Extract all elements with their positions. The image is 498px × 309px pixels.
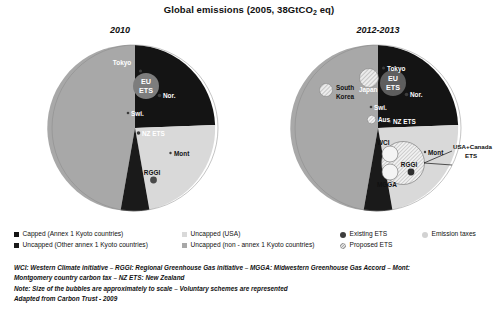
- pie-label-wci: WCI: [377, 139, 390, 146]
- footnote-line-3: Note: Size of the bubbles are approximat…: [14, 284, 494, 294]
- pie-label-nz-ets-2012: NZ ETS: [393, 118, 416, 125]
- bubble-mont-2012: [424, 151, 426, 153]
- legend-label-proposed-ets: Proposed ETS: [350, 242, 393, 249]
- pie-label-tokyo-2012: Tokyo: [387, 65, 405, 73]
- bubble-nor-2012: [405, 93, 409, 97]
- legend-label-uncapped-usa: Uncapped (USA): [191, 231, 241, 238]
- uncapped-usa-swatch-icon: [182, 232, 187, 237]
- legend-column-2: Uncapped (USA) Uncapped (non - annex 1 K…: [182, 229, 342, 251]
- uncapped-other-annex1-swatch-icon: [14, 243, 19, 248]
- pie-label-nz-ets-2010: NZ ETS: [142, 130, 165, 137]
- bubble-nor-2010: [158, 94, 162, 98]
- bubble-mont-2010: [169, 152, 171, 154]
- pie-label-rggi-2012: RGGI: [401, 161, 418, 168]
- pie-label-nor-2010: Nor.: [163, 92, 176, 99]
- slice-uncapped-non-annex1: [47, 45, 135, 210]
- legend-item-emission-taxes[interactable]: Emission taxes: [422, 229, 498, 240]
- chart-root: Global emissions (2005, 38GtCO2 eq) 2010…: [0, 0, 498, 309]
- pie-label-south-korea-2: Korea: [336, 93, 355, 100]
- pie-2010: Tokyo EU ETS Nor. Swi. NZ ETS Mont RGGI: [47, 45, 218, 211]
- bubble-japan: [360, 69, 379, 88]
- legend-item-proposed-ets[interactable]: Proposed ETS: [340, 240, 430, 251]
- legend-item-uncapped-other-annex1[interactable]: Uncapped (Other annex 1 Kyoto countries): [14, 240, 184, 251]
- bubble-tokyo-2012: [382, 67, 385, 70]
- footnote-line-1: WCI: Western Climate initiative – RGGI: …: [14, 263, 494, 273]
- callout-label-ets: ETS: [465, 152, 477, 159]
- pie-label-mont-2012: Mont: [428, 149, 444, 156]
- footnote-line-4: Adapted from Carbon Trust - 2009: [14, 294, 494, 304]
- pie-label-aus: Aus: [378, 116, 391, 123]
- bubble-nz-ets-2010: [137, 131, 141, 135]
- legend-item-uncapped-usa[interactable]: Uncapped (USA): [182, 229, 342, 240]
- legend-label-capped-annex1: Capped (Annex 1 Kyoto countries): [23, 231, 124, 238]
- pie-label-rggi-2010: RGGI: [144, 169, 161, 176]
- bubble-swi-2012: [370, 106, 373, 109]
- pie-label-nor-2012: Nor.: [410, 91, 423, 98]
- legend-label-emission-taxes: Emission taxes: [432, 231, 476, 238]
- bubble-mgga: [382, 164, 398, 180]
- bubble-swi-2010: [127, 112, 130, 115]
- pie-label-japan: Japan: [359, 86, 378, 94]
- pie-label-tokyo-2010: Tokyo: [113, 59, 131, 67]
- bubble-south-korea: [320, 84, 333, 97]
- legend-column-3: Existing ETS Proposed ETS: [340, 229, 430, 251]
- uncapped-non-annex1-swatch-icon: [182, 243, 187, 248]
- pie-label-ets-2012: ETS: [386, 83, 400, 92]
- pie-label-swi-2012: Swi.: [374, 104, 387, 111]
- legend-label-uncapped-non-annex1: Uncapped (non - annex 1 Kyoto countries): [191, 242, 315, 249]
- emission-taxes-circle-icon: [422, 232, 428, 238]
- bubble-rggi-2010: [150, 177, 157, 184]
- legend-column-1: Capped (Annex 1 Kyoto countries) Uncappe…: [14, 229, 184, 251]
- pie-label-mont-2010: Mont: [174, 150, 190, 157]
- callout-label-usa-canada: USA+Canada: [453, 143, 493, 150]
- pie-label-south-korea-1: South: [336, 84, 354, 91]
- footnote-line-2: Montgomery country carbon tax – NZ ETS: …: [14, 273, 494, 283]
- legend-item-capped-annex1[interactable]: Capped (Annex 1 Kyoto countries): [14, 229, 184, 240]
- proposed-ets-circle-icon: [340, 243, 346, 249]
- bubble-wci: [382, 146, 398, 162]
- legend-label-uncapped-other-annex1: Uncapped (Other annex 1 Kyoto countries): [23, 242, 148, 249]
- legend-item-uncapped-non-annex1[interactable]: Uncapped (non - annex 1 Kyoto countries): [182, 240, 342, 251]
- pie-label-eu-2012: EU: [388, 74, 398, 83]
- pies-svg: Tokyo EU ETS Nor. Swi. NZ ETS Mont RGGI: [0, 0, 498, 232]
- pie-label-eu-2010: EU: [141, 77, 151, 86]
- legend-item-existing-ets[interactable]: Existing ETS: [340, 229, 430, 240]
- pie-2012-2013: South Korea Japan Tokyo EU ETS Nor. Swi.…: [290, 45, 492, 211]
- legend-column-4: Emission taxes: [422, 229, 498, 240]
- footnotes: WCI: Western Climate initiative – RGGI: …: [14, 263, 494, 305]
- pie-label-mgga: MGGA: [377, 181, 397, 188]
- pie-label-ets-2010: ETS: [139, 86, 153, 95]
- pie-label-swi-2010: Swi.: [131, 110, 144, 117]
- capped-annex1-swatch-icon: [14, 232, 19, 237]
- bubble-aus: [367, 115, 375, 123]
- legend-label-existing-ets: Existing ETS: [350, 231, 388, 238]
- bubble-rggi-2012: [408, 169, 415, 176]
- bubble-tokyo-2010: [139, 69, 142, 72]
- existing-ets-circle-icon: [340, 232, 346, 238]
